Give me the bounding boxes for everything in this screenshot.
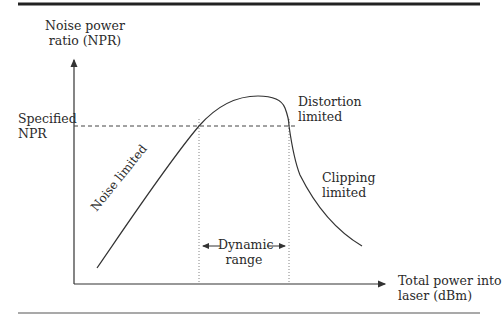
y-axis-label-line-2: ratio (NPR) xyxy=(40,33,130,48)
dynamic-range-line-1: Dynamic xyxy=(218,237,270,252)
x-axis-label: Total power into laser (dBm) xyxy=(398,273,502,303)
specified-npr-label-line-2: NPR xyxy=(18,126,77,141)
clipping-limited-label: Clipping limited xyxy=(322,170,376,200)
dynamic-range-line-2: range xyxy=(218,252,270,267)
distortion-limited-line-1: Distortion xyxy=(298,94,362,109)
clipping-limited-line-1: Clipping xyxy=(322,170,376,185)
specified-npr-label-line-1: Specified xyxy=(18,111,77,126)
dynamic-range-label: Dynamic range xyxy=(218,237,270,267)
specified-npr-label: Specified NPR xyxy=(18,111,77,141)
y-axis-label: Noise power ratio (NPR) xyxy=(40,18,130,48)
y-axis-label-line-1: Noise power xyxy=(40,18,130,33)
x-axis-label-line-1: Total power into xyxy=(398,273,502,288)
distortion-limited-line-2: limited xyxy=(298,109,362,124)
x-axis-label-line-2: laser (dBm) xyxy=(398,288,502,303)
distortion-limited-label: Distortion limited xyxy=(298,94,362,124)
clipping-limited-line-2: limited xyxy=(322,185,376,200)
